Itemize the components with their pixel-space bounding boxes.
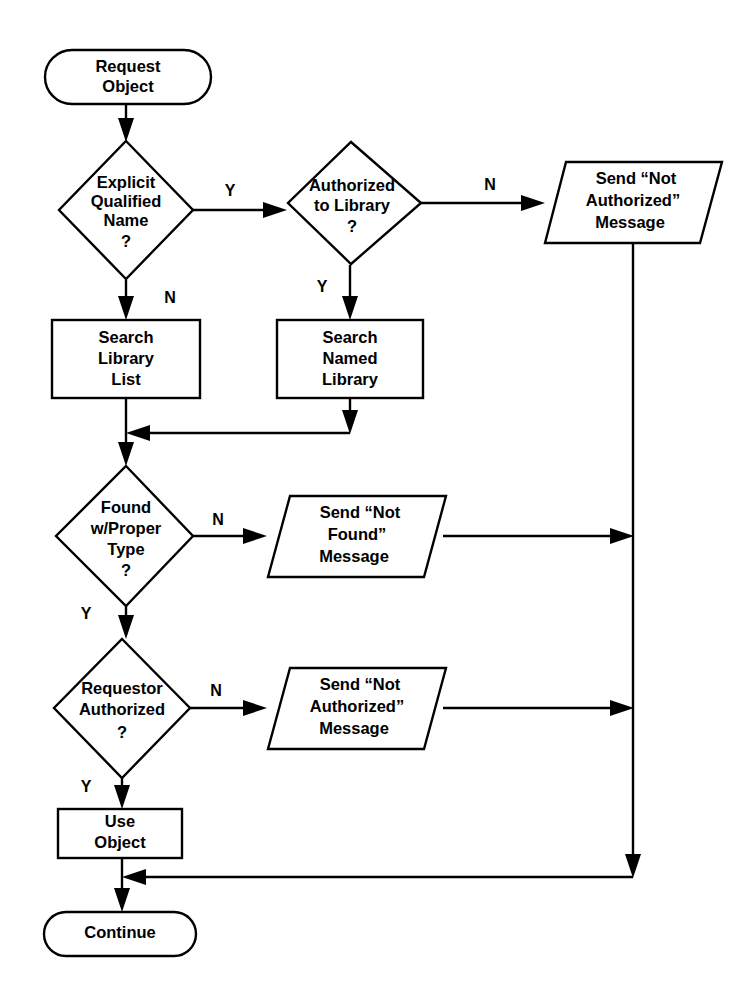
requestor-label-line2: Authorized (79, 700, 165, 718)
edge-use-object-to-continue (114, 858, 130, 912)
found-label-line1: Found (101, 498, 151, 516)
edge-label-requestor-yes: Y (81, 778, 92, 795)
flowchart-canvas: authorized to library --> search library… (0, 0, 748, 993)
node-decision-found-with-proper-type[interactable]: Found w/Proper Type ? (56, 466, 193, 606)
authorized-label-line3: ? (347, 217, 357, 235)
search-named-library-line2: Named (322, 349, 377, 367)
explicit-label-line4: ? (121, 232, 131, 250)
edge-explicit-yes-to-authorized (193, 202, 287, 218)
end-label: Continue (84, 923, 156, 941)
send-not-authorized-bottom-line1: Send “Not (320, 675, 401, 693)
found-label-line2: w/Proper (90, 519, 162, 537)
edge-search-named-library-to-merge (126, 398, 358, 441)
edge-requestor-no-to-send-not-authorized (190, 700, 267, 716)
use-object-line1: Use (105, 812, 135, 830)
edge-label-found-yes: Y (81, 605, 92, 622)
edge-send-not-authorized-bottom-to-rail (443, 700, 634, 716)
node-start-request-object[interactable]: Request Object (45, 50, 211, 104)
edge-found-no-to-send-not-found (193, 528, 267, 544)
edge-explicit-no-to-search-library-list (118, 280, 134, 320)
edge-label-explicit-no: N (164, 289, 176, 306)
node-decision-requestor-authorized[interactable]: Requestor Authorized ? (54, 639, 190, 778)
edge-send-not-found-to-rail (443, 528, 634, 544)
node-decision-authorized-to-library[interactable]: Authorized to Library ? (288, 142, 421, 264)
edge-label-requestor-no: N (210, 682, 222, 699)
edge-found-yes-to-requestor (118, 606, 134, 639)
explicit-label-line2: Qualified (91, 192, 162, 210)
explicit-label-line1: Explicit (97, 173, 156, 191)
send-not-authorized-bottom-line2: Authorized” (310, 697, 404, 715)
found-label-line3: Type (107, 540, 144, 558)
search-library-list-line1: Search (98, 328, 153, 346)
node-end-continue[interactable]: Continue (44, 912, 196, 956)
send-not-found-line1: Send “Not (320, 503, 401, 521)
edge-authorized-no-to-send-not-authorized (421, 195, 545, 211)
requestor-label-line1: Requestor (81, 679, 163, 697)
send-not-found-line2: Found” (328, 525, 387, 543)
edge-label-found-no: N (212, 511, 224, 528)
use-object-line2: Object (94, 833, 146, 851)
node-io-send-not-authorized-bottom[interactable]: Send “Not Authorized” Message (268, 668, 446, 749)
node-io-send-not-found[interactable]: Send “Not Found” Message (268, 496, 446, 577)
start-label-line2: Object (102, 77, 154, 95)
requestor-label-line3: ? (117, 723, 127, 741)
search-library-list-line3: List (111, 370, 141, 388)
send-not-authorized-top-line2: Authorized” (586, 191, 680, 209)
send-not-authorized-top-line3: Message (595, 213, 665, 231)
edge-requestor-yes-to-use-object (114, 778, 130, 809)
edge-label-authorized-yes: Y (317, 278, 328, 295)
edge-label-authorized-no: N (484, 176, 496, 193)
found-label-line4: ? (121, 561, 131, 579)
explicit-label-line3: Name (104, 211, 149, 229)
edge-start-to-explicit (118, 104, 134, 142)
edge-label-explicit-yes: Y (225, 182, 236, 199)
send-not-authorized-bottom-line3: Message (319, 719, 389, 737)
node-process-search-named-library[interactable]: Search Named Library (277, 320, 423, 398)
node-process-use-object[interactable]: Use Object (58, 809, 182, 858)
search-library-list-line2: Library (98, 349, 155, 367)
send-not-found-line3: Message (319, 547, 389, 565)
search-named-library-line3: Library (322, 370, 379, 388)
authorized-label-line1: Authorized (309, 176, 395, 194)
edge-authorized-yes-to-search-named-library (342, 265, 358, 320)
authorized-label-line2: to Library (314, 196, 391, 214)
search-named-library-line1: Search (322, 328, 377, 346)
node-process-search-library-list[interactable]: Search Library List (52, 320, 200, 398)
send-not-authorized-top-line1: Send “Not (596, 169, 677, 187)
flowchart-svg: authorized to library --> search library… (0, 0, 748, 993)
node-io-send-not-authorized-top[interactable]: Send “Not Authorized” Message (545, 162, 722, 243)
start-label-line1: Request (95, 57, 161, 75)
node-decision-explicit-qualified-name[interactable]: Explicit Qualified Name ? (59, 141, 193, 279)
